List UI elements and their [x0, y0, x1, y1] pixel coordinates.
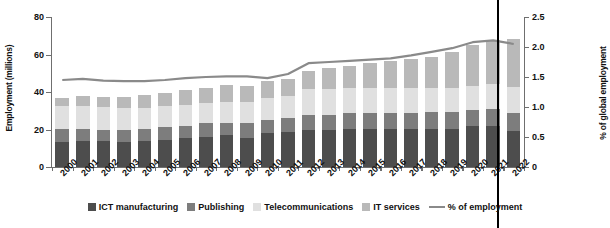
bar-2007[interactable] — [199, 88, 213, 168]
bar-2015[interactable] — [363, 63, 377, 167]
y-tick-right — [524, 137, 529, 138]
y-axis-right-title: % of global employment — [596, 18, 610, 168]
bar-2013[interactable] — [322, 68, 336, 167]
bar-segment-it-services — [281, 79, 295, 95]
y-tick-label-right: 0 — [532, 162, 537, 172]
chart-container: Employment (millions) % of global employ… — [0, 0, 610, 228]
y-tick-right — [524, 17, 529, 18]
legend-label: Publishing — [198, 202, 244, 212]
bar-2009[interactable] — [240, 86, 254, 167]
bar-segment-it-services — [138, 95, 152, 108]
legend-item-publishing[interactable]: Publishing — [187, 202, 244, 212]
bar-2004[interactable] — [138, 95, 152, 167]
bar-2006[interactable] — [179, 90, 193, 167]
y-tick-label-right: 2.0 — [532, 42, 545, 52]
legend-swatch-icon — [362, 203, 370, 211]
y-tick-right — [524, 47, 529, 48]
bar-2003[interactable] — [117, 97, 131, 167]
bar-2011[interactable] — [281, 79, 295, 167]
bar-segment-it-services — [384, 61, 398, 88]
bar-2001[interactable] — [76, 96, 90, 167]
bar-segment-telecommunications — [117, 108, 131, 130]
legend-item-of-employment[interactable]: % of employment — [429, 202, 523, 212]
bar-2022[interactable] — [507, 39, 521, 167]
y-axis-left-title: Employment (millions) — [2, 18, 16, 158]
y-tick-label-left: 20 — [34, 125, 44, 135]
y-tick-left — [46, 55, 51, 56]
bar-segment-it-services — [199, 88, 213, 103]
y-axis-right-line — [524, 17, 525, 167]
bar-segment-publishing — [220, 123, 234, 136]
bar-2002[interactable] — [97, 97, 111, 167]
bar-segment-publishing — [507, 113, 521, 131]
bar-segment-it-services — [76, 96, 90, 106]
bar-2017[interactable] — [404, 59, 418, 167]
bar-segment-publishing — [76, 129, 90, 141]
bar-segment-telecommunications — [220, 102, 234, 123]
bar-segment-telecommunications — [158, 106, 172, 127]
bar-segment-telecommunications — [138, 108, 152, 129]
bar-segment-publishing — [138, 129, 152, 141]
bar-segment-publishing — [199, 123, 213, 137]
legend-item-ict-manufacturing[interactable]: ICT manufacturing — [88, 202, 179, 212]
y-tick-label-right: 1.0 — [532, 102, 545, 112]
y-axis-left-line — [51, 17, 52, 167]
bar-2018[interactable] — [425, 57, 439, 167]
y-tick-left — [46, 130, 51, 131]
bar-segment-telecommunications — [384, 88, 398, 113]
bar-segment-publishing — [322, 115, 336, 131]
bar-segment-it-services — [261, 81, 275, 98]
x-tick — [52, 167, 53, 171]
bar-segment-telecommunications — [281, 96, 295, 119]
bar-segment-it-services — [97, 97, 111, 108]
y-tick-right — [524, 77, 529, 78]
bar-segment-publishing — [281, 118, 295, 132]
bar-segment-telecommunications — [404, 88, 418, 113]
legend-swatch-icon — [187, 203, 195, 211]
bar-segment-it-services — [302, 71, 316, 90]
plot-area: 020406080 00.51.01.52.02.5 2000200120022… — [52, 17, 524, 167]
legend-item-it-services[interactable]: IT services — [362, 202, 420, 212]
legend-label: % of employment — [448, 202, 523, 212]
bar-segment-it-services — [343, 66, 357, 89]
y-tick-label-right: 0.5 — [532, 132, 545, 142]
bar-segment-telecommunications — [55, 106, 69, 129]
bar-segment-telecommunications — [507, 87, 521, 113]
bar-2016[interactable] — [384, 61, 398, 167]
bar-2014[interactable] — [343, 66, 357, 167]
bar-2010[interactable] — [261, 81, 275, 167]
chart-legend: ICT manufacturingPublishingTelecommunica… — [0, 202, 610, 212]
bar-segment-it-services — [55, 98, 69, 106]
bar-segment-it-services — [363, 63, 377, 87]
bar-segment-publishing — [97, 130, 111, 142]
bar-2005[interactable] — [158, 93, 172, 167]
bar-segment-publishing — [158, 127, 172, 140]
bar-segment-publishing — [261, 120, 275, 133]
legend-swatch-icon — [253, 203, 261, 211]
legend-item-telecommunications[interactable]: Telecommunications — [253, 202, 353, 212]
bar-segment-telecommunications — [343, 88, 357, 113]
bar-segment-publishing — [117, 130, 131, 142]
y-tick-label-right: 1.5 — [532, 72, 545, 82]
bar-segment-publishing — [445, 112, 459, 129]
bar-segment-telecommunications — [302, 89, 316, 115]
y-tick-label-left: 60 — [34, 50, 44, 60]
bar-segment-it-services — [220, 85, 234, 101]
bar-segment-publishing — [425, 112, 439, 128]
bar-segment-telecommunications — [466, 86, 480, 110]
bar-2012[interactable] — [302, 71, 316, 167]
y-tick-left — [46, 17, 51, 18]
bar-segment-publishing — [404, 113, 418, 129]
bar-segment-publishing — [343, 113, 357, 129]
bar-segment-publishing — [363, 113, 377, 129]
bar-segment-telecommunications — [425, 88, 439, 113]
bar-segment-telecommunications — [240, 102, 254, 124]
y-tick-label-right: 2.5 — [532, 12, 545, 22]
bar-2019[interactable] — [445, 52, 459, 167]
y-tick-right — [524, 107, 529, 108]
bar-2020[interactable] — [466, 45, 480, 167]
bar-segment-publishing — [179, 126, 193, 139]
bar-2000[interactable] — [55, 98, 69, 167]
y-axis-right-title-text: % of global employment — [598, 46, 608, 139]
bar-2008[interactable] — [220, 85, 234, 167]
